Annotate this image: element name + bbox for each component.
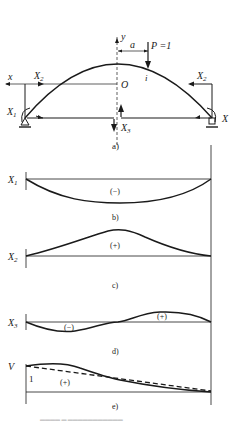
- x-axis-label: x: [7, 71, 13, 82]
- x2-right-label: X2: [196, 70, 207, 83]
- arch-influence-lines-figure: y a P =1 i x O X2 X2 X1: [0, 0, 231, 427]
- panel-e-v-influence-line: V 1 (+) e): [8, 361, 211, 411]
- right-roller-support-icon: [209, 118, 215, 124]
- panel-b-label: X1: [7, 174, 18, 187]
- panel-e-caption: e): [112, 402, 119, 411]
- x3-down-arrow-icon: [111, 124, 117, 132]
- panel-c-label: X2: [7, 251, 18, 264]
- load-label: P =1: [150, 40, 171, 51]
- x1-right-moment-arc: [207, 108, 216, 122]
- panel-b-caption: b): [112, 213, 119, 222]
- panel-e-sign: (+): [60, 378, 70, 387]
- panel-c-sign: (+): [110, 241, 120, 250]
- panel-d-caption: d): [112, 347, 119, 356]
- panel-a-arch-structure: y a P =1 i x O X2 X2 X1: [5, 31, 229, 151]
- panel-d-label: X3: [7, 317, 18, 330]
- panel-d-sign-positive: (+): [157, 312, 167, 321]
- panel-c-caption: c): [112, 281, 119, 290]
- panel-e-label: V: [8, 361, 16, 372]
- panel-d-sign-negative: (−): [64, 323, 74, 332]
- x1-left-label: X1: [6, 106, 17, 119]
- arch-curve: [25, 64, 212, 118]
- x3-up-arrow-icon: [118, 104, 124, 112]
- simple-beam-dashed-line: [26, 366, 211, 391]
- x2-left-label: X2: [33, 70, 44, 83]
- panel-e-unit-value: 1: [29, 374, 34, 384]
- figure-caption-faint: ▬▬▬▬ ▬ ▬▬▬▬▬▬▬▬▬▬▬: [40, 416, 123, 422]
- y-axis-label: y: [120, 31, 126, 42]
- load-arrow-icon: [145, 61, 151, 69]
- load-point-label: i: [145, 73, 148, 83]
- influence-curve: [26, 364, 211, 392]
- panel-a-caption: a): [112, 141, 119, 151]
- panel-c-x2-influence-line: X2 (+) c): [7, 230, 211, 290]
- dimension-a-label: a: [130, 39, 135, 50]
- x-axis-arrow-icon: [5, 82, 10, 86]
- panel-d-x3-influence-line: X3 (−) (+) d): [7, 312, 211, 356]
- x1-right-label: X: [221, 113, 229, 124]
- panel-b-x1-influence-line: X1 (−) b): [7, 172, 211, 222]
- panel-b-sign: (−): [110, 187, 120, 196]
- x3-label: X3: [120, 122, 131, 135]
- x2-right-arrow-icon: [188, 82, 194, 87]
- y-axis-arrow-icon: [115, 38, 119, 43]
- origin-label: O: [121, 79, 128, 90]
